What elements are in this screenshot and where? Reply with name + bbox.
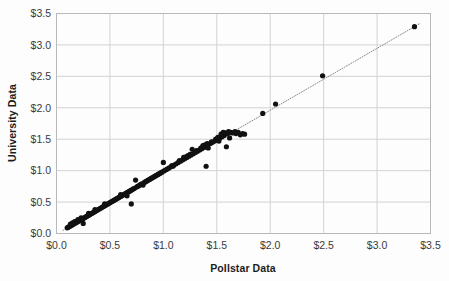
y-tick-label: $2.0 <box>31 102 52 114</box>
x-tick-label: $3.0 <box>367 239 388 251</box>
x-axis-tick-labels: $0.0$0.5$1.0$1.5$2.0$2.5$3.0$3.5 <box>46 239 441 251</box>
data-point <box>227 135 232 140</box>
y-axis-title: University Data <box>6 84 18 162</box>
y-tick-label: $3.0 <box>31 39 52 51</box>
data-point <box>260 111 265 116</box>
data-point <box>129 201 134 206</box>
y-tick-label: $0.5 <box>31 196 52 208</box>
x-tick-label: $2.0 <box>260 239 281 251</box>
y-tick-label: $1.5 <box>31 133 52 145</box>
x-tick-label: $1.5 <box>207 239 228 251</box>
plot-svg: $0.0$0.5$1.0$1.5$2.0$2.5$3.0$3.5 $0.0$0.… <box>0 0 449 281</box>
data-point <box>161 160 166 165</box>
x-tick-label: $2.5 <box>313 239 334 251</box>
data-point <box>273 101 278 106</box>
y-tick-label: $1.0 <box>31 164 52 176</box>
y-tick-label: $2.5 <box>31 70 52 82</box>
data-point <box>224 144 229 149</box>
data-point <box>81 221 86 226</box>
x-tick-label: $0.5 <box>100 239 121 251</box>
data-point <box>133 177 138 182</box>
y-tick-label: $0.0 <box>31 227 52 239</box>
x-tick-label: $3.5 <box>420 239 441 251</box>
data-point <box>412 24 417 29</box>
x-axis-title: Pollstar Data <box>210 262 276 274</box>
data-point <box>242 132 247 137</box>
scatter-chart-figure: $0.0$0.5$1.0$1.5$2.0$2.5$3.0$3.5 $0.0$0.… <box>0 0 449 281</box>
x-tick-label: $0.0 <box>46 239 67 251</box>
y-tick-label: $3.5 <box>31 7 52 19</box>
data-point <box>320 73 325 78</box>
y-axis-tick-labels: $0.0$0.5$1.0$1.5$2.0$2.5$3.0$3.5 <box>31 7 52 239</box>
data-point <box>204 164 209 169</box>
x-tick-label: $1.0 <box>153 239 174 251</box>
